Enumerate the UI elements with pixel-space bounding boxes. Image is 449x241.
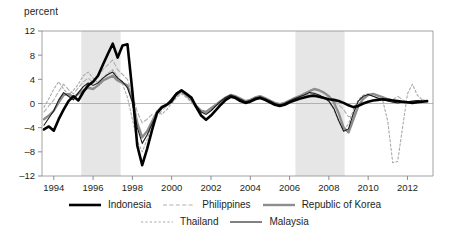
x-tick-label: 2006 (279, 182, 300, 193)
legend-item-korea[interactable]: Republic of Korea (262, 199, 382, 210)
legend-label-korea: Republic of Korea (302, 199, 382, 210)
y-tick-label: 8 (30, 50, 35, 61)
y-axis-ticks: –12–8–404812 (19, 25, 42, 181)
line-chart: –12–8–404812 199419961998200020022004200… (0, 0, 449, 196)
y-tick-label: –12 (19, 170, 35, 181)
x-tick-label: 2002 (200, 182, 221, 193)
legend-swatch-malaysia (229, 217, 263, 227)
y-tick-label: –8 (24, 146, 35, 157)
legend-label-thailand: Thailand (180, 216, 218, 227)
legend-item-thailand[interactable]: Thailand (140, 216, 218, 227)
y-tick-label: 0 (30, 98, 35, 109)
chart-figure: percent –12–8–404812 1994199619982000200… (0, 0, 449, 241)
x-tick-label: 2004 (240, 182, 261, 193)
x-tick-label: 2010 (358, 182, 379, 193)
legend-row: ThailandMalaysia (0, 213, 449, 230)
x-tick-label: 1998 (122, 182, 143, 193)
y-tick-label: –4 (24, 122, 35, 133)
x-tick-label: 1994 (43, 182, 64, 193)
legend-item-malaysia[interactable]: Malaysia (229, 216, 308, 227)
legend-swatch-indonesia (68, 200, 102, 210)
chart-legend: IndonesiaPhilippinesRepublic of KoreaTha… (0, 196, 449, 230)
legend-item-philippines[interactable]: Philippines (162, 199, 250, 210)
legend-swatch-philippines (162, 200, 196, 210)
x-tick-label: 1996 (83, 182, 104, 193)
legend-label-philippines: Philippines (202, 199, 250, 210)
x-axis-ticks: 1994199619982000200220042006200820102012 (43, 176, 418, 193)
legend-label-indonesia: Indonesia (108, 199, 151, 210)
legend-row: IndonesiaPhilippinesRepublic of Korea (0, 196, 449, 213)
legend-label-malaysia: Malaysia (269, 216, 308, 227)
y-tick-label: 4 (30, 74, 35, 85)
legend-item-indonesia[interactable]: Indonesia (68, 199, 151, 210)
y-tick-label: 12 (24, 25, 35, 36)
x-tick-label: 2012 (397, 182, 418, 193)
legend-swatch-thailand (140, 217, 174, 227)
legend-swatch-korea (262, 200, 296, 210)
x-tick-label: 2008 (318, 182, 339, 193)
x-tick-label: 2000 (161, 182, 182, 193)
